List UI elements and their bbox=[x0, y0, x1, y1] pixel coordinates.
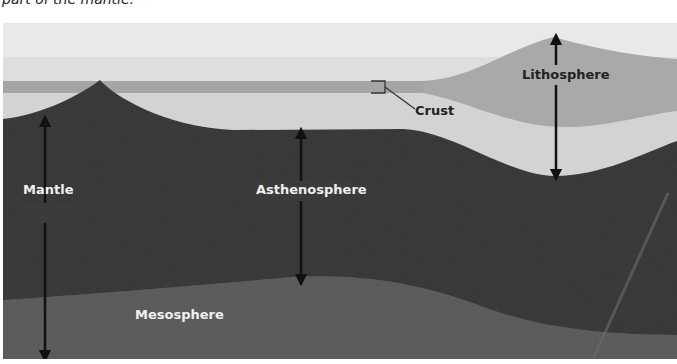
label-mantle: Mantle bbox=[23, 182, 73, 197]
crust-layer bbox=[3, 81, 423, 93]
label-asthenosphere: Asthenosphere bbox=[256, 182, 367, 197]
caption-text: part of the mantle. bbox=[2, 0, 134, 7]
label-mesosphere: Mesosphere bbox=[135, 307, 224, 322]
label-crust: Crust bbox=[415, 103, 454, 118]
label-lithosphere: Lithosphere bbox=[522, 67, 609, 82]
